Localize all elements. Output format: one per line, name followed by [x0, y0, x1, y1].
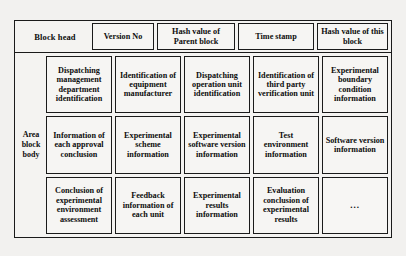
body-cell-dispatching-operation-unit-identification: Dispatching operation unit identificatio… [184, 56, 250, 113]
body-row: Conclusion of experimental environment a… [46, 177, 388, 234]
block-head-field-version-no: Version No [92, 23, 154, 50]
body-cell-experimental-scheme-information: Experimental scheme information [115, 116, 181, 173]
body-cell-experimental-software-version-information: Experimental software version informatio… [184, 116, 250, 173]
body-cell-evaluation-conclusion-of-experimental-results: Evaluation conclusion of experimental re… [253, 177, 319, 234]
body-row: Information of each approval conclusion … [46, 116, 388, 173]
body-row: Dispatching management department identi… [46, 56, 388, 113]
area-block-body-section: Area block body Dispatching management d… [15, 53, 391, 237]
block-head-field-parent-hash: Hash value of Parent block [157, 23, 235, 50]
body-cell-more-ellipsis: ... [322, 177, 388, 234]
body-cell-identification-of-equipment-manufacturer: Identification of equipment manufacturer [115, 56, 181, 113]
body-cell-identification-of-third-party-verification-unit: Identification of third party verificati… [253, 56, 319, 113]
block-head-field-list: Version No Hash value of Parent block Ti… [92, 23, 388, 50]
area-block-body-label-line-1: Area [23, 130, 40, 140]
block-head-field-this-hash: Hash value of this block [317, 23, 388, 50]
body-cell-experimental-boundary-condition-information: Experimental boundary condition informat… [322, 56, 388, 113]
area-block-body-label-line-2: block [22, 140, 41, 150]
area-block-body-label: Area block body [18, 56, 44, 234]
area-block-body-grid: Dispatching management department identi… [44, 56, 388, 234]
body-cell-feedback-information-of-each-unit: Feedback information of each unit [115, 177, 181, 234]
area-block-body-label-line-3: body [23, 150, 40, 160]
body-cell-software-version-information: Software version information [322, 116, 388, 173]
body-cell-dispatching-management-department-identification: Dispatching management department identi… [46, 56, 112, 113]
block-head-section: Block head Version No Hash value of Pare… [15, 21, 391, 53]
body-cell-experimental-results-information: Experimental results information [184, 177, 250, 234]
block-head-field-time-stamp: Time stamp [238, 23, 314, 50]
body-cell-test-environment-information: Test environment information [253, 116, 319, 173]
body-cell-conclusion-of-experimental-environment-assessment: Conclusion of experimental environment a… [46, 177, 112, 234]
block-structure-diagram: Block head Version No Hash value of Pare… [14, 20, 392, 238]
body-cell-information-of-each-approval-conclusion: Information of each approval conclusion [46, 116, 112, 173]
block-head-label: Block head [18, 23, 92, 50]
